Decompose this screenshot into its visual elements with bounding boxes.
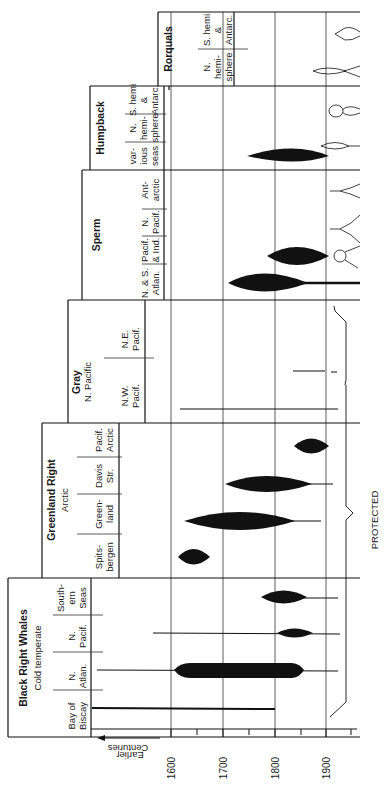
col-bay-of-biscay-2: Biscay [77, 702, 88, 730]
col-ne-pacif-2: Pacif. [130, 327, 141, 351]
group-title-greenland: Greenland Right [45, 459, 57, 541]
col-pacif-arctic: Pacif. [93, 428, 104, 452]
col-s-hemi-antarc-hb-3: Antarc. [149, 85, 160, 115]
pacif-ind-circle-fork-icon [334, 246, 360, 268]
peak-n-pacif [277, 629, 313, 638]
peak-ns-atlan [228, 274, 308, 292]
tick-label-1600: 1600 [166, 756, 177, 779]
col-spitsbergen: Spits- [93, 545, 104, 569]
col-ne-pacif: N.E. [119, 330, 130, 348]
col-southern-seas-2: ern [66, 591, 77, 605]
group-humpback-header: Humpback var- ious seas N. hemi- sphere … [94, 84, 160, 166]
col-n-atlan: N. [66, 671, 77, 681]
col-n-atlan-2: Atlan. [77, 664, 88, 688]
n-pacif-fork-icon [330, 215, 360, 243]
year-gridlines [171, 12, 326, 737]
col-n-hemisphere-rq: N. [201, 62, 212, 72]
col-s-hemi-antarc-hb-2: & [138, 96, 149, 103]
col-s-hemi-antarc-rq: S. hemi [201, 14, 212, 46]
group-subtitle-black-right: Cold temperate [32, 626, 43, 691]
group-separators [8, 12, 360, 737]
group-gray-header: Gray N. Pacific N.W. Pacif. N.E. Pacif. [70, 327, 141, 408]
col-s-hemi-antarc-hb: S. hemi [127, 84, 138, 116]
peak-various-seas [247, 149, 329, 162]
group-sperm-header: Sperm N. & S. Atlan. Pacif. & Ind. N. Pa… [90, 178, 161, 298]
axis-label-centuries-visible: Centuries [107, 743, 148, 754]
col-southern-seas: South- [55, 584, 66, 612]
col-nw-pacif-2: Pacif. [130, 384, 141, 408]
tick-label-1800: 1800 [270, 756, 281, 779]
group-greenland-right-header: Greenland Right Arctic Spits- bergen Gre… [45, 428, 115, 572]
antarctic-fork-icon [330, 184, 360, 198]
col-n-pacif-sperm: N. [139, 217, 150, 227]
col-ns-atlan: N. & S. [139, 268, 150, 298]
peak-pacif-ind-shape [267, 247, 329, 265]
tick-label-1900: 1900 [321, 756, 332, 779]
protected-bracket [330, 306, 353, 717]
col-greenland-2: land [104, 505, 115, 523]
col-greenland: Green- [93, 499, 104, 529]
group-subtitle-greenland: Arctic [59, 488, 70, 512]
group-title-rorquals: Rorquals [162, 26, 174, 72]
col-n-hemisphere-hb: N. [127, 123, 138, 133]
group-subtitle-gray: N. Pacific [82, 362, 93, 402]
col-n-hemisphere-rq-3: sphere [223, 52, 234, 81]
group-black-right-header: Black Right Whales Cold temperate Bay of… [17, 584, 88, 730]
col-various-seas-2: ious [138, 147, 149, 165]
peak-greenland [184, 512, 295, 530]
col-davis-str: Davis [93, 464, 104, 488]
peak-davis-str [225, 476, 312, 492]
peak-pacif-arctic [294, 439, 329, 454]
protected-label: PROTECTED [369, 491, 380, 550]
tick-label-1700: 1700 [218, 756, 229, 779]
col-n-hemisphere-hb-3: sphere [149, 113, 160, 142]
rorquals-s-hemi-tail-icon [335, 28, 360, 41]
col-ns-atlan-2: Atlan. [150, 271, 161, 295]
peak-n-atlan [174, 663, 304, 678]
n-hemisphere-lens-icon [321, 143, 360, 150]
rorquals-n-hemisphere-fish-icon [313, 66, 360, 77]
col-various-seas: var- [127, 148, 138, 164]
group-title-humpback: Humpback [94, 101, 106, 155]
group-title-black-right: Black Right Whales [17, 609, 29, 707]
col-s-hemi-antarc-rq-2: & [212, 26, 223, 33]
col-n-pacif-sperm-2: Pacif. [150, 210, 161, 234]
col-n-hemisphere-rq-2: hemi- [212, 55, 223, 79]
whale-exploitation-timeline-chart: 1600 1700 1800 1900 Earlier Centuries Ce… [0, 0, 386, 790]
col-pacif-arctic-2: Arctic [104, 428, 115, 452]
group-title-gray: Gray [70, 370, 82, 394]
group-title-sperm: Sperm [90, 219, 102, 252]
col-s-hemi-antarc-rq-3: Antarc. [223, 15, 234, 45]
bar-bay-of-biscay [92, 708, 275, 709]
col-n-pacif-2: Pacif. [77, 624, 88, 648]
col-various-seas-3: seas [149, 146, 160, 166]
col-pacif-ind: Pacif. [139, 238, 150, 262]
col-bay-of-biscay: Bay of [66, 702, 77, 729]
s-hemi-bulb-icon [329, 105, 360, 117]
col-davis-str-2: Str. [104, 469, 115, 483]
col-spitsbergen-2: bergen [104, 542, 115, 572]
col-antarctic-2: arctic [150, 178, 161, 201]
col-n-hemisphere-hb-2: hemi- [138, 116, 149, 140]
col-southern-seas-3: Seas [77, 587, 88, 609]
col-n-pacif: N. [66, 631, 77, 641]
peak-spitsbergen [178, 549, 210, 565]
col-antarctic: Ant- [139, 181, 150, 198]
earlier-arrow-icon [97, 735, 160, 741]
col-pacif-ind-2: & Ind. [150, 238, 161, 263]
peak-southern-seas [261, 591, 307, 604]
col-nw-pacif: N.W. [119, 386, 130, 407]
